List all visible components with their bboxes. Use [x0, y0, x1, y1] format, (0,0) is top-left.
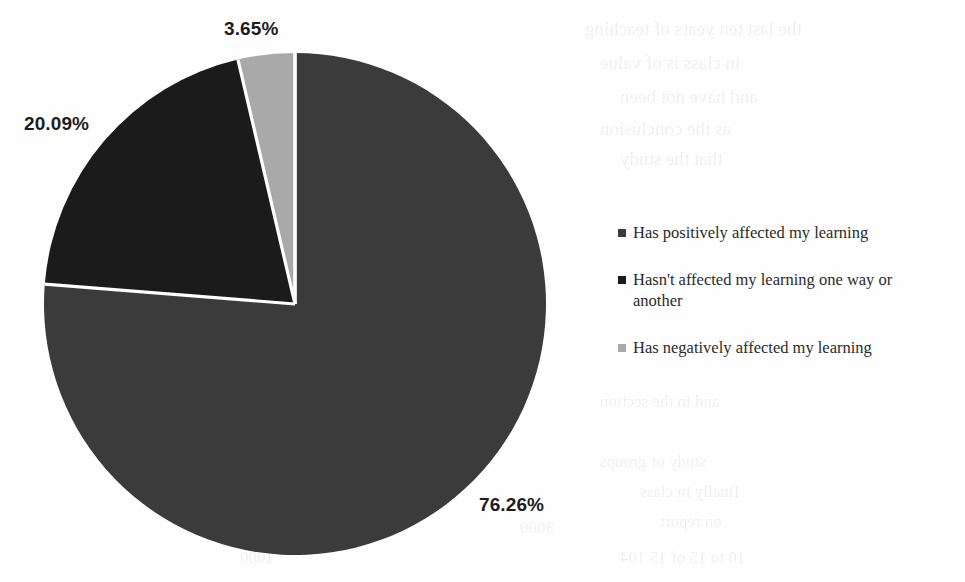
legend-item-label: Has negatively affected my learning	[633, 337, 872, 358]
bleedthrough-text: the last ten years of teaching	[585, 18, 802, 40]
bleedthrough-text: study or groups	[600, 452, 706, 472]
pie-label-neutral: 20.09%	[24, 113, 89, 135]
bleedthrough-text: that the study	[620, 148, 722, 170]
chart-legend: Has positively affected my learningHasn'…	[618, 222, 948, 384]
bleedthrough-text: 10 to 15 of 15 104	[620, 548, 745, 568]
bleedthrough-text: as the conclusion	[600, 118, 731, 140]
legend-item-label: Hasn't affected my learning one way or a…	[633, 269, 933, 311]
chart-page: the last ten years of teachingin class i…	[0, 0, 965, 582]
legend-item[interactable]: Has positively affected my learning	[618, 222, 948, 243]
legend-item-label: Has positively affected my learning	[633, 222, 868, 243]
bleedthrough-text: on report	[660, 512, 722, 532]
pie-chart-svg	[44, 53, 546, 555]
legend-swatch-icon	[618, 229, 626, 237]
bleedthrough-text: finally in class	[640, 482, 739, 502]
legend-item[interactable]: Hasn't affected my learning one way or a…	[618, 269, 948, 311]
legend-swatch-icon	[618, 276, 626, 284]
pie-chart	[44, 53, 546, 555]
legend-item[interactable]: Has negatively affected my learning	[618, 337, 948, 358]
pie-label-negative: 3.65%	[224, 18, 278, 40]
bleedthrough-text: and have not been	[620, 86, 758, 108]
pie-label-positive: 76.26%	[479, 494, 544, 516]
legend-swatch-icon	[618, 344, 626, 352]
bleedthrough-text: in class is of value	[600, 52, 740, 74]
bleedthrough-text: and in the section	[600, 392, 719, 412]
